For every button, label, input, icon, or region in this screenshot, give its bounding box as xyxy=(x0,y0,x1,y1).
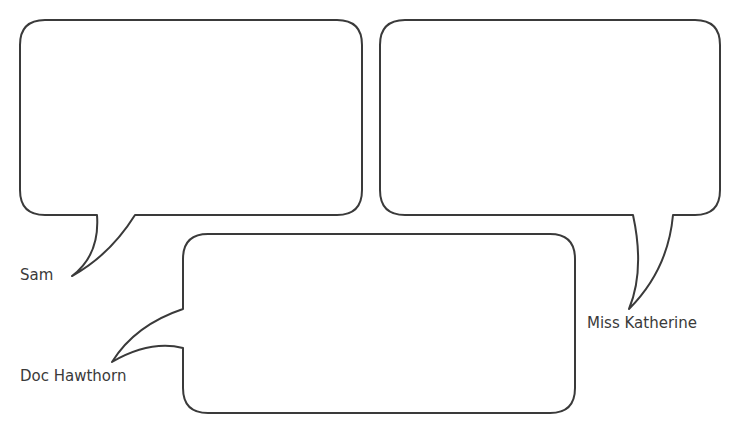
speaker-label-miss-katherine: Miss Katherine xyxy=(587,314,697,332)
speech-bubble-doc-hawthorn[interactable] xyxy=(193,244,565,403)
speaker-label-doc-hawthorn: Doc Hawthorn xyxy=(20,367,126,385)
speaker-label-sam: Sam xyxy=(20,266,53,284)
speech-bubble-miss-katherine[interactable] xyxy=(390,30,710,205)
speech-bubble-sam[interactable] xyxy=(30,30,352,205)
